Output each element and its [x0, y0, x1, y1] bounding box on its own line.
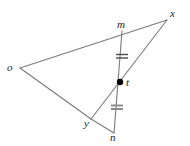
segment-y-x — [91, 20, 167, 119]
segment-o-y — [20, 68, 91, 119]
geometry-canvas — [0, 0, 190, 146]
vertex-label-n: n — [110, 132, 116, 143]
segment-group — [20, 20, 167, 133]
vertex-label-x: x — [170, 8, 175, 19]
segment-o-x — [20, 20, 167, 68]
vertex-label-o: o — [7, 62, 13, 73]
point-marker-t — [117, 79, 123, 85]
vertex-label-m: m — [117, 19, 125, 30]
tick-mark-lower — [111, 106, 123, 110]
vertex-label-t: t — [126, 77, 129, 88]
vertex-label-y: y — [84, 118, 89, 129]
geometry-figure: o x m t y n — [0, 0, 190, 146]
tick-mark-upper — [116, 55, 128, 59]
